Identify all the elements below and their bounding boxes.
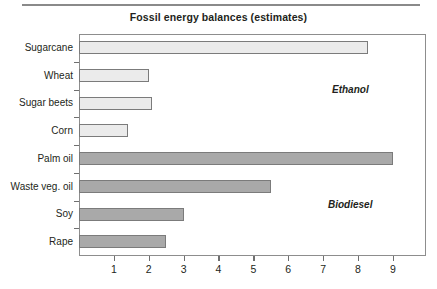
x-axis-tick bbox=[323, 256, 324, 261]
x-axis-tick bbox=[288, 256, 289, 261]
y-axis-label: Rape bbox=[0, 236, 73, 247]
y-axis-label: Waste veg. oil bbox=[0, 181, 73, 192]
x-axis-tick-label: 6 bbox=[275, 263, 301, 275]
bar-palm-oil bbox=[79, 152, 393, 165]
annotation-ethanol: Ethanol bbox=[332, 84, 369, 95]
bar-row bbox=[79, 117, 426, 145]
x-axis-tick bbox=[184, 256, 185, 261]
x-axis-tick-label: 1 bbox=[101, 263, 127, 275]
y-axis-label: Corn bbox=[0, 125, 73, 136]
y-axis-tick bbox=[74, 201, 79, 202]
x-axis-tick bbox=[358, 256, 359, 261]
y-axis-tick bbox=[74, 62, 79, 63]
chart-title: Fossil energy balances (estimates) bbox=[0, 11, 437, 23]
bar-wheat bbox=[79, 69, 149, 82]
chart-figure: Fossil energy balances (estimates) Sugar… bbox=[0, 0, 437, 289]
y-axis-label: Wheat bbox=[0, 70, 73, 81]
x-axis-tick bbox=[114, 256, 115, 261]
bar-row bbox=[79, 90, 426, 118]
y-axis-tick bbox=[74, 145, 79, 146]
y-axis-tick bbox=[74, 173, 79, 174]
bar-sugarcane bbox=[79, 41, 368, 54]
y-axis-label: Palm oil bbox=[0, 153, 73, 164]
bar-row bbox=[79, 201, 426, 229]
x-axis-tick-label: 3 bbox=[171, 263, 197, 275]
y-axis-label: Sugar beets bbox=[0, 97, 73, 108]
x-axis-tick-label: 4 bbox=[205, 263, 231, 275]
bars-container bbox=[79, 34, 426, 256]
x-axis-tick bbox=[149, 256, 150, 261]
y-axis-tick bbox=[74, 90, 79, 91]
bar-corn bbox=[79, 124, 128, 137]
bar-waste-veg-oil bbox=[79, 180, 271, 193]
x-axis-tick-label: 2 bbox=[136, 263, 162, 275]
bar-rape bbox=[79, 235, 166, 248]
x-axis-tick-label: 5 bbox=[240, 263, 266, 275]
bar-row bbox=[79, 62, 426, 90]
bar-row bbox=[79, 173, 426, 201]
top-divider-rule bbox=[22, 4, 420, 6]
annotation-biodiesel: Biodiesel bbox=[328, 199, 372, 210]
x-axis-tick bbox=[253, 256, 254, 261]
x-axis-tick bbox=[393, 256, 394, 261]
y-axis-labels: SugarcaneWheatSugar beetsCornPalm oilWas… bbox=[0, 34, 73, 256]
x-axis-tick bbox=[218, 256, 219, 261]
bar-sugar-beets bbox=[79, 97, 152, 110]
bar-soy bbox=[79, 208, 184, 221]
bar-row bbox=[79, 145, 426, 173]
y-axis-tick bbox=[74, 228, 79, 229]
x-axis-tick-label: 8 bbox=[345, 263, 371, 275]
y-axis-label: Soy bbox=[0, 208, 73, 219]
y-axis-tick bbox=[74, 117, 79, 118]
x-axis-tick-label: 7 bbox=[310, 263, 336, 275]
x-axis-tick-label: 9 bbox=[380, 263, 406, 275]
bar-row bbox=[79, 228, 426, 256]
bar-row bbox=[79, 34, 426, 62]
y-axis-label: Sugarcane bbox=[0, 42, 73, 53]
